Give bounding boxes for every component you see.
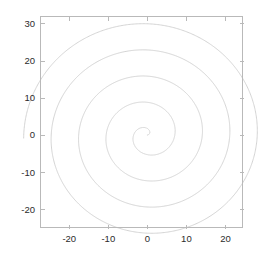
y-tick-label: 20 — [24, 55, 35, 66]
y-tick-label: 30 — [24, 18, 35, 29]
y-axis-tick-labels: -20-100102030 — [21, 18, 35, 215]
figure-container: -20-1001020 -20-100102030 — [0, 0, 258, 260]
x-axis-tick-labels: -20-1001020 — [62, 233, 230, 244]
y-tick-label: 10 — [24, 92, 35, 103]
y-tick-label: -20 — [21, 204, 35, 215]
spiral-plot: -20-1001020 -20-100102030 — [0, 0, 258, 260]
x-tick-label: -20 — [62, 233, 76, 244]
y-tick-label: -10 — [21, 167, 35, 178]
x-tick-label: -10 — [101, 233, 115, 244]
x-tick-label: 0 — [145, 233, 150, 244]
y-tick-label: 0 — [30, 129, 35, 140]
x-tick-label: 10 — [181, 233, 192, 244]
x-tick-label: 20 — [220, 233, 231, 244]
